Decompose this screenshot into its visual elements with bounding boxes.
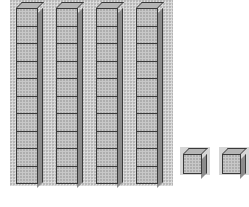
rod-cube <box>16 8 38 27</box>
rod-cube <box>136 8 158 27</box>
rod-cube <box>96 148 118 167</box>
rod-cube <box>16 113 38 132</box>
rod-cube <box>136 166 158 185</box>
unit-front-face <box>222 154 241 174</box>
rod-cube <box>96 113 118 132</box>
rod-cube <box>16 43 38 62</box>
rod-cube <box>136 78 158 97</box>
rod-cube <box>16 148 38 167</box>
rod-cube <box>56 96 78 115</box>
rod-cube <box>56 148 78 167</box>
rod-cube <box>96 131 118 150</box>
rod-cube <box>136 26 158 45</box>
rod-cube <box>136 43 158 62</box>
rod-cube <box>16 78 38 97</box>
rod-cube <box>96 43 118 62</box>
rod-cube <box>16 26 38 45</box>
rod-cube <box>56 26 78 45</box>
rod-cube <box>96 26 118 45</box>
rod-cube <box>56 131 78 150</box>
rod-cube <box>56 43 78 62</box>
rod-cube <box>56 113 78 132</box>
rod-cube <box>136 113 158 132</box>
rod-cube <box>56 78 78 97</box>
rod-cube <box>96 166 118 185</box>
rod-cube <box>16 166 38 185</box>
rod-cube <box>136 148 158 167</box>
rod-cube <box>16 131 38 150</box>
rod-cube <box>96 8 118 27</box>
rod-cube <box>96 61 118 80</box>
rod-cube <box>136 131 158 150</box>
rod-cube <box>56 61 78 80</box>
rod-cube <box>96 78 118 97</box>
unit-front-face <box>183 154 202 174</box>
rod-cube <box>136 96 158 115</box>
rod-cube <box>96 96 118 115</box>
rod-cube <box>56 8 78 27</box>
rod-cube <box>136 61 158 80</box>
rod-cube <box>16 96 38 115</box>
rod-cube <box>56 166 78 185</box>
rod-cube <box>16 61 38 80</box>
